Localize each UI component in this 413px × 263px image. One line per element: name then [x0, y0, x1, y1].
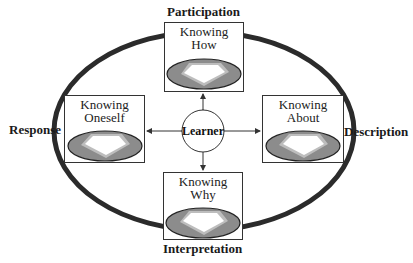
gem-ellipse-icon — [263, 96, 345, 164]
label-participation: Participation — [167, 4, 240, 20]
gem-ellipse-icon — [164, 173, 244, 241]
gem-ellipse-icon — [165, 23, 245, 93]
label-interpretation: Interpretation — [163, 241, 242, 257]
label-response: Response — [9, 122, 61, 138]
node-knowing-why: KnowingWhy — [163, 172, 243, 240]
label-description: Description — [344, 124, 408, 140]
node-knowing-how: KnowingHow — [164, 22, 244, 92]
node-knowing-about: KnowingAbout — [262, 95, 344, 163]
node-knowing-oneself: KnowingOneself — [64, 95, 145, 163]
learner-label: Learner — [180, 124, 226, 139]
gem-ellipse-icon — [65, 96, 146, 164]
